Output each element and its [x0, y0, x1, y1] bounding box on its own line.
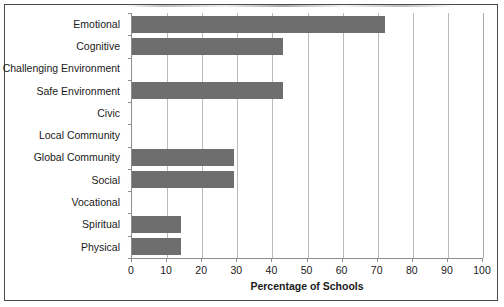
value-tick-label: 60 — [336, 263, 348, 277]
category-label: Safe Environment — [8, 80, 126, 102]
bar — [132, 82, 283, 99]
value-tick-label: 30 — [230, 263, 242, 277]
plot-area — [131, 13, 483, 259]
value-tick — [236, 258, 237, 262]
bar-row — [132, 124, 483, 146]
bar-row — [132, 213, 483, 235]
category-label: Global Community — [8, 147, 126, 169]
category-label: Physical — [8, 236, 126, 258]
category-axis-labels: EmotionalCognitiveChallenging Environmen… — [8, 13, 126, 258]
value-tick-label: 20 — [195, 263, 207, 277]
value-tick-label: 70 — [371, 263, 383, 277]
value-tick — [201, 258, 202, 262]
bar — [132, 216, 181, 233]
bar-row — [132, 236, 483, 258]
gridline — [483, 13, 484, 258]
category-label: Cognitive — [8, 35, 126, 57]
bar-row — [132, 191, 483, 213]
value-tick — [131, 258, 132, 262]
value-tick-label: 0 — [128, 263, 134, 277]
value-tick-label: 100 — [473, 263, 491, 277]
value-tick — [166, 258, 167, 262]
bar-series — [132, 13, 483, 258]
bar-chart: EmotionalCognitiveChallenging Environmen… — [0, 0, 504, 307]
bar — [132, 16, 385, 33]
value-tick-label: 50 — [301, 263, 313, 277]
bar-row — [132, 102, 483, 124]
bar — [132, 38, 283, 55]
category-label: Civic — [8, 102, 126, 124]
bar — [132, 171, 234, 188]
value-tick-label: 90 — [441, 263, 453, 277]
category-label: Emotional — [8, 13, 126, 35]
value-tick — [412, 258, 413, 262]
value-tick-label: 80 — [406, 263, 418, 277]
category-label: Local Community — [8, 124, 126, 146]
bar-row — [132, 169, 483, 191]
value-axis-labels: 0102030405060708090100 — [131, 263, 483, 277]
bar-row — [132, 58, 483, 80]
value-tick — [447, 258, 448, 262]
category-label: Challenging Environment — [8, 58, 126, 80]
value-tick — [482, 258, 483, 262]
bar-row — [132, 13, 483, 35]
bar — [132, 149, 234, 166]
category-label: Social — [8, 169, 126, 191]
bar — [132, 238, 181, 255]
bar-row — [132, 35, 483, 57]
value-tick-label: 40 — [266, 263, 278, 277]
value-tick — [271, 258, 272, 262]
bar-row — [132, 147, 483, 169]
category-label: Spiritual — [8, 213, 126, 235]
bar-row — [132, 80, 483, 102]
value-tick — [342, 258, 343, 262]
value-tick-label: 10 — [160, 263, 172, 277]
x-axis-title: Percentage of Schools — [131, 280, 483, 292]
value-tick — [377, 258, 378, 262]
category-label: Vocational — [8, 191, 126, 213]
value-tick — [307, 258, 308, 262]
